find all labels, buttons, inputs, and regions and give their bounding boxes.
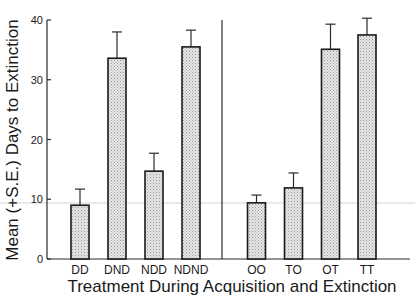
bar-tt: [358, 18, 376, 259]
bar-dnd: [108, 32, 126, 259]
y-tick-label: 20: [31, 134, 43, 146]
x-category-label: OO: [247, 263, 266, 277]
x-category-label: NDD: [141, 263, 167, 277]
x-category-label: NDND: [174, 263, 209, 277]
x-axis-labels: DDDNDNDDNDNDOOTOOTTT: [71, 263, 375, 277]
y-tick-label: 0: [37, 253, 43, 265]
bar-to: [285, 173, 303, 259]
x-category-label: OT: [322, 263, 339, 277]
bar-rect: [108, 58, 126, 259]
bar-chart: 010203040 DDDNDNDDNDNDOOTOOTTT Treatment…: [0, 0, 415, 302]
x-category-label: DD: [71, 263, 89, 277]
bar-rect: [182, 47, 200, 259]
bar-rect: [248, 203, 266, 259]
bar-rect: [71, 205, 89, 259]
bar-dd: [71, 189, 89, 259]
x-category-label: DND: [104, 263, 130, 277]
bar-ot: [322, 24, 340, 259]
y-axis-title: Mean (+S.E.) Days to Extinction: [3, 19, 22, 260]
y-tick-label: 40: [31, 14, 43, 26]
bar-rect: [145, 171, 163, 259]
x-category-label: TT: [360, 263, 375, 277]
bar-ndnd: [182, 30, 200, 259]
bar-rect: [322, 49, 340, 259]
bar-ndd: [145, 153, 163, 259]
y-tick-label: 10: [31, 193, 43, 205]
x-category-label: TO: [285, 263, 301, 277]
bars: [71, 18, 376, 259]
bar-rect: [285, 188, 303, 259]
bar-oo: [248, 195, 266, 259]
x-axis-title: Treatment During Acquisition and Extinct…: [67, 277, 396, 296]
bar-rect: [358, 35, 376, 259]
y-tick-label: 30: [31, 74, 43, 86]
